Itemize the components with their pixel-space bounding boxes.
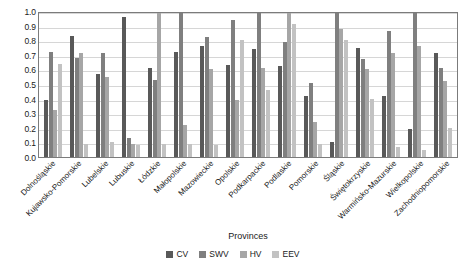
legend-swatch-icon — [240, 251, 247, 258]
bar-group — [40, 13, 66, 157]
bar — [330, 142, 334, 157]
y-tick-label: 0.8 — [8, 37, 36, 45]
y-tick-label: 1.0 — [8, 8, 36, 16]
bar — [361, 59, 365, 157]
bar-group — [352, 13, 378, 157]
legend-label: SWV — [209, 250, 228, 259]
bar — [292, 24, 296, 157]
y-tick-label: 0.5 — [8, 81, 36, 89]
legend-label: CV — [176, 250, 188, 259]
bar — [434, 53, 438, 157]
legend-item[interactable]: SWV — [199, 250, 228, 259]
bar — [382, 96, 386, 157]
y-axis: 1.00.90.80.70.60.50.40.30.20.10.0 — [8, 12, 36, 158]
x-tick-label: Lubuskie — [107, 159, 136, 188]
legend-item[interactable]: CV — [166, 250, 188, 259]
bar — [252, 49, 256, 157]
legend-item[interactable]: EEV — [272, 250, 299, 259]
bar — [179, 12, 183, 157]
bar — [84, 144, 88, 157]
bar — [53, 110, 57, 157]
bar — [49, 52, 53, 157]
bar-group — [66, 13, 92, 157]
bar — [370, 99, 374, 157]
bar-group — [326, 13, 352, 157]
bar — [70, 36, 74, 157]
bar — [261, 68, 265, 157]
bar — [335, 12, 339, 157]
y-tick-label: 0.7 — [8, 52, 36, 60]
bar — [240, 40, 244, 157]
bar — [339, 29, 343, 157]
bar — [235, 100, 239, 157]
bar — [443, 81, 447, 157]
bar-group — [430, 13, 456, 157]
bar-group — [144, 13, 170, 157]
x-axis-title: Provinces — [38, 231, 458, 241]
bar — [287, 12, 291, 157]
bar-group — [274, 13, 300, 157]
bar — [105, 77, 109, 157]
legend-label: EEV — [282, 250, 299, 259]
y-tick-label: 0.1 — [8, 139, 36, 147]
bar — [257, 12, 261, 157]
bar — [439, 68, 443, 157]
y-tick-label: 0.3 — [8, 110, 36, 118]
bar — [58, 64, 62, 157]
bar — [127, 138, 131, 157]
bar — [110, 142, 114, 157]
bar — [131, 144, 135, 157]
bar — [408, 129, 412, 157]
y-tick-label: 0.2 — [8, 125, 36, 133]
legend-swatch-icon — [199, 251, 206, 258]
y-tick-label: 0.6 — [8, 66, 36, 74]
bar-group — [404, 13, 430, 157]
bar — [209, 69, 213, 157]
bar — [226, 65, 230, 157]
bar-group — [92, 13, 118, 157]
bar — [309, 83, 313, 157]
bar — [75, 58, 79, 157]
bar — [157, 12, 161, 157]
bar — [122, 17, 126, 157]
bar — [318, 144, 322, 157]
bar — [101, 53, 105, 157]
bar-group — [170, 13, 196, 157]
bar — [422, 150, 426, 157]
bar — [183, 125, 187, 157]
y-tick-label: 0.4 — [8, 96, 36, 104]
bar — [136, 145, 140, 157]
legend-item[interactable]: HV — [240, 250, 262, 259]
bar — [413, 12, 417, 157]
bar — [188, 144, 192, 157]
bar — [174, 52, 178, 157]
bar-groups — [39, 13, 457, 157]
x-tick-label: Lubelskie — [80, 159, 110, 189]
legend: CVSWVHVEEV — [0, 250, 466, 259]
x-tick-label: Śląskie — [322, 159, 347, 184]
bar — [387, 31, 391, 157]
bar — [79, 53, 83, 157]
plot-area — [38, 12, 458, 158]
legend-swatch-icon — [166, 251, 173, 258]
bar — [391, 53, 395, 157]
bar-group — [196, 13, 222, 157]
bar-chart-figure: 1.00.90.80.70.60.50.40.30.20.10.0 Dolnoś… — [0, 0, 466, 271]
bar — [278, 66, 282, 157]
bar-group — [300, 13, 326, 157]
bar — [365, 69, 369, 157]
bar-group — [222, 13, 248, 157]
bar — [396, 147, 400, 157]
bar — [266, 90, 270, 157]
legend-swatch-icon — [272, 251, 279, 258]
bar — [214, 145, 218, 157]
legend-label: HV — [250, 250, 262, 259]
y-tick-label: 0.0 — [8, 154, 36, 162]
bar — [283, 42, 287, 157]
bar — [153, 80, 157, 157]
bar — [96, 74, 100, 157]
bar — [356, 48, 360, 158]
bar — [44, 100, 48, 157]
bar-group — [118, 13, 144, 157]
bar — [344, 40, 348, 157]
